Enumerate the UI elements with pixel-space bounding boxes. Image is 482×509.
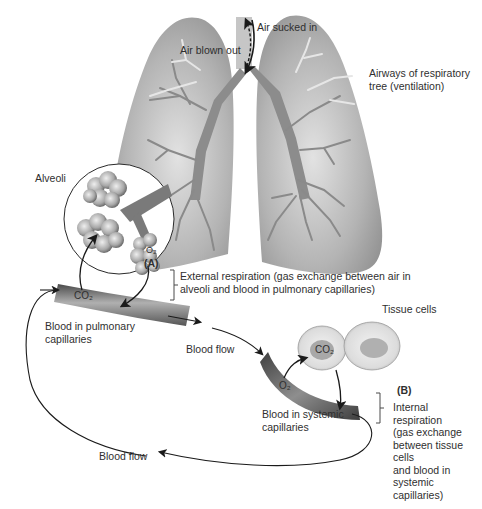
label-co2-b: CO₂ bbox=[315, 344, 334, 357]
label-external-respiration: External respiration (gas exchange betwe… bbox=[180, 270, 440, 295]
label-blood-flow-top: Blood flow bbox=[186, 343, 234, 356]
label-blood-pulmonary: Blood in pulmonary capillaries bbox=[45, 320, 155, 345]
label-airways: Airways of respiratory tree (ventilation… bbox=[369, 67, 474, 92]
label-air-blown-out: Air blown out bbox=[180, 44, 241, 57]
label-blood-systemic: Blood in systemic capillaries bbox=[262, 408, 362, 433]
label-blood-flow-bottom: Blood flow bbox=[99, 450, 147, 463]
label-air-sucked-in: Air sucked in bbox=[257, 21, 317, 34]
label-blood-systemic-1: Blood in systemic capillaries bbox=[262, 408, 362, 433]
label-co2-a: CO₂ bbox=[74, 290, 93, 303]
label-internal-respiration: Internal respiration (gas exchange betwe… bbox=[393, 401, 463, 501]
label-alveoli: Alveoli bbox=[35, 172, 66, 185]
label-tissue-cells: Tissue cells bbox=[382, 303, 436, 316]
label-o2-a: O₂ bbox=[146, 244, 157, 257]
label-section-b: (B) bbox=[397, 384, 412, 397]
label-o2-b: O₂ bbox=[279, 380, 291, 393]
label-section-a: (A) bbox=[144, 257, 159, 270]
